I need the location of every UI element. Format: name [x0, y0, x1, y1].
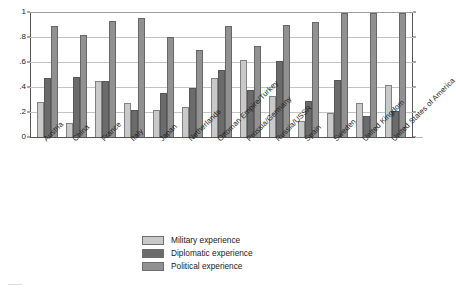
legend-label: Diplomatic experience — [171, 249, 253, 257]
bar — [312, 22, 319, 137]
bar — [80, 35, 87, 138]
scan-artifact — [8, 284, 22, 285]
bar — [327, 113, 334, 137]
bar-group — [323, 12, 352, 137]
legend-item: Political experience — [142, 261, 253, 271]
plot-area: 0.2.4.6.81 — [30, 12, 413, 137]
bar — [37, 102, 44, 137]
legend-label: Military experience — [171, 236, 240, 244]
bar-group — [120, 12, 149, 137]
bar-groups — [30, 12, 413, 137]
bar-group — [178, 12, 207, 137]
y-axis-tick-label: 1 — [22, 8, 30, 16]
y-tick-mark-right — [413, 12, 416, 13]
bar — [341, 13, 348, 137]
bar — [356, 103, 363, 137]
y-axis-tick-label: .6 — [19, 58, 30, 66]
bar-group — [62, 12, 91, 137]
y-tick-mark-right — [413, 62, 416, 63]
bar — [182, 107, 189, 137]
legend-swatch — [142, 262, 164, 271]
bar — [399, 13, 406, 137]
legend-swatch — [142, 249, 164, 258]
legend-item: Military experience — [142, 235, 253, 245]
y-axis-tick-label: .4 — [19, 83, 30, 91]
legend-item: Diplomatic experience — [142, 248, 253, 258]
bar — [240, 60, 247, 138]
legend-label: Political experience — [171, 262, 242, 270]
bar — [153, 110, 160, 138]
y-axis-tick-label: 0 — [22, 133, 30, 141]
bar-group — [33, 12, 62, 137]
chart-legend: Military experienceDiplomatic experience… — [142, 235, 253, 271]
bar — [124, 103, 131, 137]
bar — [95, 81, 102, 137]
bar — [138, 18, 145, 137]
y-tick-mark-right — [413, 87, 416, 88]
bar — [370, 13, 377, 137]
bar-group — [352, 12, 381, 137]
x-axis-labels: AustriaChinaFranceItalyJapanNetherlandsO… — [30, 139, 413, 234]
y-tick-mark-right — [413, 37, 416, 38]
y-axis-tick-label: .2 — [19, 108, 30, 116]
bar-group — [149, 12, 178, 137]
y-axis-tick-label: .8 — [19, 33, 30, 41]
bar-group — [91, 12, 120, 137]
legend-swatch — [142, 236, 164, 245]
